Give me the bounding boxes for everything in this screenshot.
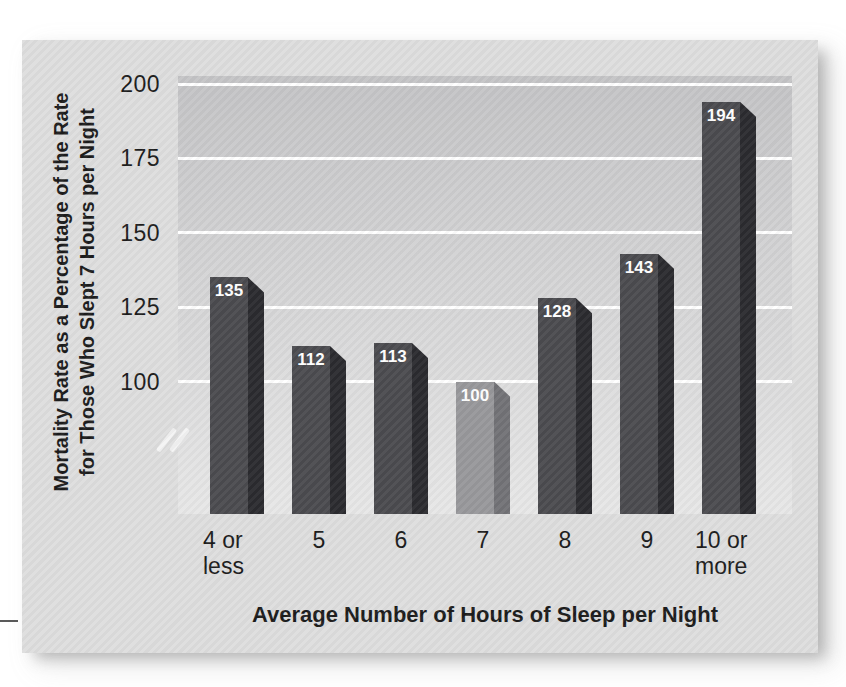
x-tick-label-10-or-more: 10 ormore — [681, 527, 777, 579]
grid-line-200 — [178, 83, 792, 86]
bar-face — [620, 254, 658, 514]
bar-side-shadow — [412, 343, 428, 514]
x-tick-line: 10 or — [695, 527, 777, 553]
bar-5: 112 — [292, 346, 346, 514]
bar-side-shadow — [658, 254, 674, 514]
bar-value-label: 143 — [620, 258, 658, 278]
bar-face — [374, 343, 412, 514]
y-tick-label-125: 125 — [68, 293, 160, 321]
y-axis-title: Mortality Rate as a Percentage of the Ra… — [48, 32, 104, 552]
grid-line-125 — [178, 306, 792, 309]
bar-value-label: 128 — [538, 302, 576, 322]
bar-chart-figure: Mortality Rate as a Percentage of the Ra… — [22, 40, 818, 653]
bar-value-label: 100 — [456, 386, 494, 406]
grid-line-175 — [178, 157, 792, 160]
bar-face — [292, 346, 330, 514]
x-tick-line: less — [203, 553, 285, 579]
bar-4-or-less: 135 — [210, 277, 264, 514]
bar-9: 143 — [620, 254, 674, 514]
bar-face — [702, 102, 740, 514]
bar-10-or-more: 194 — [702, 102, 756, 514]
page-margin-line — [0, 620, 18, 622]
y-axis-title-line1: Mortality Rate as a Percentage of the Ra… — [48, 32, 74, 552]
y-axis-title-line2: for Those Who Slept 7 Hours per Night — [74, 32, 100, 552]
bar-7: 100 — [456, 382, 510, 514]
scanned-page: Mortality Rate as a Percentage of the Ra… — [0, 0, 846, 687]
bar-side-shadow — [330, 346, 346, 514]
y-tick-label-200: 200 — [68, 70, 160, 98]
bar-6: 113 — [374, 343, 428, 514]
grid-line-150 — [178, 231, 792, 234]
bar-face — [538, 298, 576, 514]
bar-value-label: 194 — [702, 106, 740, 126]
y-tick-label-100: 100 — [68, 368, 160, 396]
bar-value-label: 113 — [374, 347, 412, 367]
x-tick-line: more — [695, 553, 777, 579]
bar-side-shadow — [248, 277, 264, 514]
bar-side-shadow — [494, 382, 510, 514]
bar-face — [210, 277, 248, 514]
bar-value-label: 135 — [210, 281, 248, 301]
bar-side-shadow — [576, 298, 592, 514]
y-tick-label-175: 175 — [68, 144, 160, 172]
x-axis-title: Average Number of Hours of Sleep per Nig… — [178, 602, 792, 628]
bar-value-label: 112 — [292, 350, 330, 370]
y-tick-label-150: 150 — [68, 219, 160, 247]
bar-side-shadow — [740, 102, 756, 514]
bar-8: 128 — [538, 298, 592, 514]
